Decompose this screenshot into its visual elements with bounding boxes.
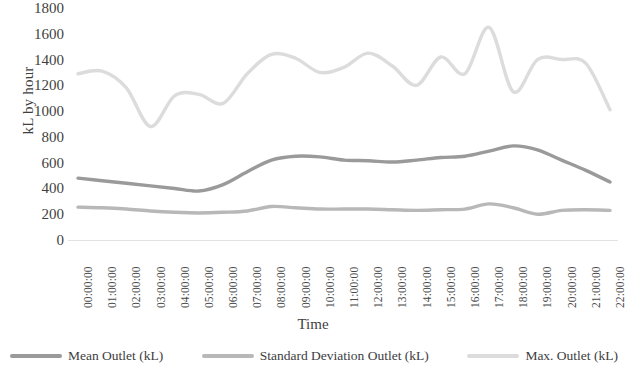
y-axis-tick-label: 1600 xyxy=(8,27,64,42)
x-axis-tick-labels: 00:00:0001:00:0002:00:0003:00:0004:00:00… xyxy=(68,242,618,312)
x-axis-tick-label: 01:00:00 xyxy=(106,238,118,308)
series-line xyxy=(78,204,610,214)
line-swatch-icon xyxy=(10,354,62,358)
y-axis-tick-labels: 020040060080010001200140016001800 xyxy=(8,0,64,250)
x-axis-tick-label: 06:00:00 xyxy=(227,238,239,308)
y-axis-tick-label: 600 xyxy=(8,156,64,171)
x-axis-tick-label: 04:00:00 xyxy=(179,238,191,308)
x-axis-tick-label: 00:00:00 xyxy=(82,238,94,308)
x-axis-line xyxy=(68,240,618,241)
line-swatch-icon xyxy=(467,354,519,358)
y-axis-tick-label: 400 xyxy=(8,181,64,196)
x-axis-tick-label: 12:00:00 xyxy=(372,238,384,308)
x-axis-tick-label: 16:00:00 xyxy=(469,238,481,308)
y-axis-tick-label: 1000 xyxy=(8,104,64,119)
y-axis-tick-label: 200 xyxy=(8,207,64,222)
x-axis-tick-label: 08:00:00 xyxy=(275,238,287,308)
x-axis-tick-label: 22:00:00 xyxy=(614,238,626,308)
chart-legend: Mean Outlet (kL)Standard Deviation Outle… xyxy=(0,345,626,367)
series-line xyxy=(78,146,610,191)
x-axis-tick-label: 17:00:00 xyxy=(493,238,505,308)
legend-item[interactable]: Mean Outlet (kL) xyxy=(10,348,163,364)
x-axis-tick-label: 13:00:00 xyxy=(396,238,408,308)
x-axis-title: Time xyxy=(0,316,626,333)
legend-item-label: Standard Deviation Outlet (kL) xyxy=(260,348,429,364)
legend-item-label: Mean Outlet (kL) xyxy=(68,348,163,364)
x-axis-tick-label: 21:00:00 xyxy=(590,238,602,308)
line-chart: kL by hour 02004006008001000120014001600… xyxy=(0,0,626,374)
series-line xyxy=(78,27,610,126)
legend-item[interactable]: Max. Outlet (kL) xyxy=(467,348,618,364)
x-axis-tick-label: 03:00:00 xyxy=(155,238,167,308)
y-axis-tick-label: 800 xyxy=(8,130,64,145)
y-axis-tick-label: 1400 xyxy=(8,53,64,68)
line-swatch-icon xyxy=(202,354,254,358)
x-axis-tick-label: 18:00:00 xyxy=(517,238,529,308)
x-axis-tick-label: 09:00:00 xyxy=(300,238,312,308)
y-axis-tick-label: 0 xyxy=(8,233,64,248)
y-axis-tick-label: 1200 xyxy=(8,78,64,93)
x-axis-tick-label: 11:00:00 xyxy=(348,238,360,308)
x-axis-tick-label: 19:00:00 xyxy=(541,238,553,308)
x-axis-tick-label: 10:00:00 xyxy=(324,238,336,308)
x-axis-tick-label: 15:00:00 xyxy=(445,238,457,308)
x-axis-tick-label: 07:00:00 xyxy=(251,238,263,308)
x-axis-tick-label: 02:00:00 xyxy=(130,238,142,308)
legend-item-label: Max. Outlet (kL) xyxy=(525,348,618,364)
x-axis-tick-label: 05:00:00 xyxy=(203,238,215,308)
y-axis-tick-label: 1800 xyxy=(8,1,64,16)
plot-area xyxy=(68,8,618,242)
plot-svg xyxy=(68,8,618,242)
legend-item[interactable]: Standard Deviation Outlet (kL) xyxy=(202,348,429,364)
x-axis-tick-label: 20:00:00 xyxy=(566,238,578,308)
x-axis-tick-label: 14:00:00 xyxy=(421,238,433,308)
